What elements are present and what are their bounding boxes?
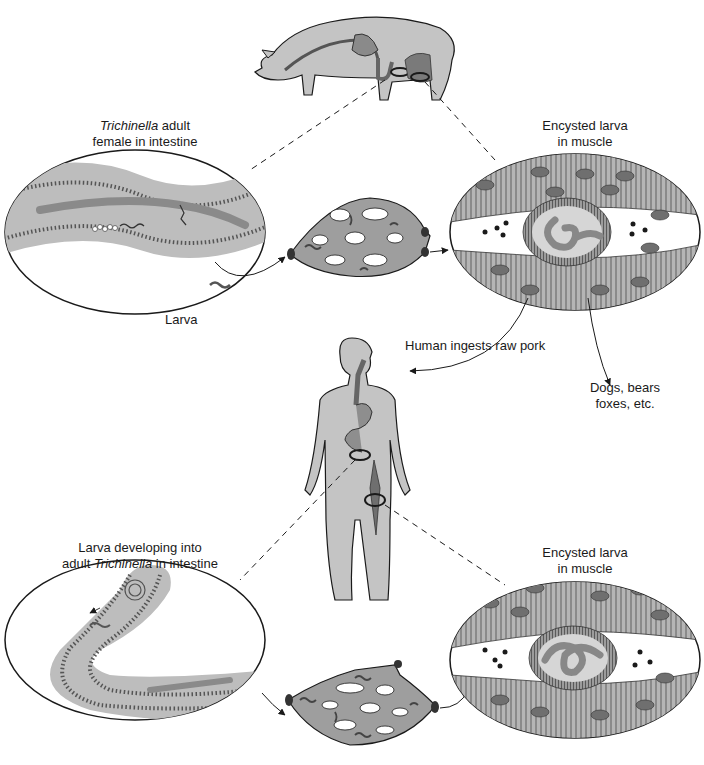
arrow-cyst-to-human — [410, 298, 528, 371]
label-text-italic: Trichinella — [94, 556, 152, 571]
capillary-bed-top — [287, 198, 430, 277]
arrow-cyst-to-other-hosts — [588, 298, 610, 385]
label-text-italic: Trichinella — [100, 118, 158, 133]
label-text: in muscle — [515, 134, 655, 150]
label-encysted-larva-bottom: Encysted larva in muscle — [515, 545, 655, 577]
label-text: adult — [62, 556, 94, 571]
label-text: Human ingests raw pork — [405, 338, 545, 353]
larva-developing-intestine-illustration — [5, 560, 270, 721]
adult-female-intestine-illustration — [0, 150, 270, 314]
human-figure — [305, 338, 410, 600]
pig-illustration — [255, 17, 454, 100]
label-text: Encysted larva — [515, 545, 655, 561]
label-text: adult — [158, 118, 190, 133]
label-larva: Larva — [165, 312, 225, 328]
label-larva-developing-into-adult: Larva developing into adult Trichinella … — [40, 540, 240, 572]
dashed-connector-pig-to-cyst — [425, 82, 495, 160]
label-text: Larva — [165, 312, 198, 327]
label-human-ingests-raw-pork: Human ingests raw pork — [405, 338, 585, 354]
label-text: Larva developing into — [40, 540, 240, 556]
label-text: Dogs, bears — [575, 380, 675, 396]
encysted-larva-muscle-bottom — [450, 580, 700, 740]
dashed-connector-human-to-cyst — [385, 505, 505, 585]
arrow-intestine-to-capillary-bottom — [262, 693, 285, 715]
label-text: Encysted larva — [515, 118, 655, 134]
label-text: female in intestine — [55, 134, 235, 150]
label-adult-female-in-intestine: Trichinella adult female in intestine — [55, 118, 235, 150]
label-text: in muscle — [515, 561, 655, 577]
label-encysted-larva-top: Encysted larva in muscle — [515, 118, 655, 150]
label-other-hosts: Dogs, bears foxes, etc. — [575, 380, 675, 412]
dashed-connector-pig-to-intestine — [250, 80, 385, 170]
encysted-larva-muscle-top — [450, 150, 700, 320]
capillary-bed-bottom — [285, 660, 439, 745]
label-text: in intestine — [152, 556, 218, 571]
label-text: foxes, etc. — [575, 396, 675, 412]
arrow-capillary-to-cyst-top — [430, 250, 448, 252]
